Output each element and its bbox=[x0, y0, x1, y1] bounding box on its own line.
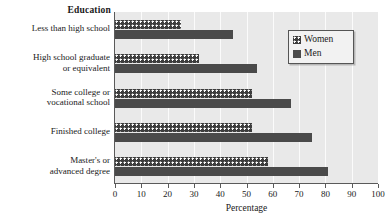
axis-tick-label: 70 bbox=[287, 189, 311, 199]
x-axis-title: Percentage bbox=[115, 203, 378, 213]
legend-label: Men bbox=[304, 48, 321, 58]
axis-tick-label: 0 bbox=[103, 189, 127, 199]
axis-tick bbox=[168, 184, 169, 188]
category-label-line: or equivalent bbox=[0, 63, 110, 74]
axis-tick bbox=[352, 184, 353, 188]
y-axis-line bbox=[114, 12, 115, 184]
bar-women bbox=[115, 123, 252, 132]
axis-tick-label: 80 bbox=[313, 189, 337, 199]
axis-tick bbox=[273, 184, 274, 188]
axis-tick-label: 10 bbox=[129, 189, 153, 199]
bar-men bbox=[115, 99, 291, 108]
legend-swatch-men bbox=[293, 50, 301, 58]
bar-women bbox=[115, 89, 252, 98]
category-label: Finished college bbox=[0, 126, 110, 137]
axis-tick-label: 100 bbox=[366, 189, 389, 199]
category-label: Master's oradvanced degree bbox=[0, 155, 110, 176]
axis-tick-label: 90 bbox=[340, 189, 364, 199]
axis-tick bbox=[115, 184, 116, 188]
axis-tick bbox=[194, 184, 195, 188]
category-label: Some college orvocational school bbox=[0, 87, 110, 108]
axis-tick bbox=[220, 184, 221, 188]
axis-tick bbox=[141, 184, 142, 188]
legend-swatch-women bbox=[293, 36, 301, 44]
category-label-line: Less than high school bbox=[0, 23, 110, 34]
axis-tick-label: 40 bbox=[208, 189, 232, 199]
axis-tick bbox=[325, 184, 326, 188]
bar-men bbox=[115, 167, 328, 176]
axis-tick bbox=[378, 184, 379, 188]
category-label: High school graduateor equivalent bbox=[0, 52, 110, 73]
bar-women bbox=[115, 157, 268, 166]
axis-tick-label: 20 bbox=[156, 189, 180, 199]
category-label-line: Master's or bbox=[0, 155, 110, 166]
category-label-line: Finished college bbox=[0, 126, 110, 137]
axis-tick-label: 60 bbox=[261, 189, 285, 199]
legend-label: Women bbox=[304, 34, 333, 44]
category-label-line: Some college or bbox=[0, 87, 110, 98]
chart-title: Education bbox=[0, 5, 111, 15]
axis-tick-label: 30 bbox=[182, 189, 206, 199]
category-label-line: High school graduate bbox=[0, 52, 110, 63]
category-label-line: advanced degree bbox=[0, 166, 110, 177]
bar-women bbox=[115, 54, 199, 63]
bar-women bbox=[115, 20, 181, 29]
axis-tick bbox=[247, 184, 248, 188]
bar-men bbox=[115, 64, 257, 73]
legend: WomenMen bbox=[288, 30, 354, 64]
axis-tick-label: 50 bbox=[235, 189, 259, 199]
category-label-line: vocational school bbox=[0, 97, 110, 108]
bar-men bbox=[115, 30, 233, 39]
category-label: Less than high school bbox=[0, 23, 110, 34]
bar-men bbox=[115, 133, 312, 142]
axis-tick bbox=[299, 184, 300, 188]
